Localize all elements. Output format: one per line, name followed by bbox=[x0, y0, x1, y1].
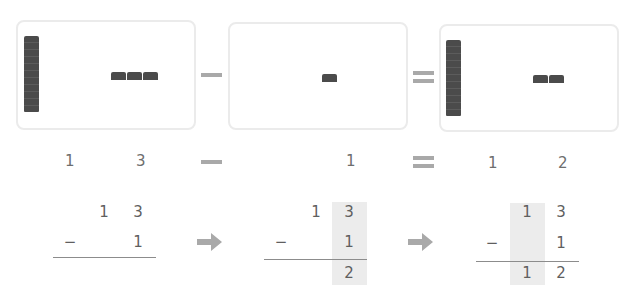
step3-top-tens: 1 bbox=[517, 203, 537, 221]
step2-top-tens: 1 bbox=[306, 203, 326, 221]
tens-rod bbox=[24, 36, 39, 112]
minus-symbol bbox=[201, 73, 222, 77]
equals-symbol-bottom bbox=[413, 79, 434, 83]
step3-result-tens: 1 bbox=[517, 264, 537, 282]
step3-bottom-ones: 1 bbox=[551, 234, 571, 252]
step3-op: − bbox=[482, 234, 502, 252]
equals-symbol-top bbox=[413, 156, 434, 160]
label-a-tens: 1 bbox=[65, 152, 75, 170]
unit-cube bbox=[143, 72, 158, 80]
label-b-ones: 1 bbox=[346, 152, 356, 170]
unit-cube bbox=[533, 75, 548, 83]
unit-cube bbox=[322, 74, 337, 82]
unit-cube bbox=[549, 75, 564, 83]
step2-top-ones: 3 bbox=[339, 203, 359, 221]
step1-op: − bbox=[60, 233, 80, 251]
step2-op: − bbox=[271, 233, 291, 251]
equals-symbol-bottom bbox=[413, 164, 434, 168]
step1-sum-line bbox=[53, 257, 156, 258]
equals-symbol-top bbox=[413, 71, 434, 75]
unit-cube bbox=[111, 72, 126, 80]
minus-symbol bbox=[201, 160, 222, 164]
label-result-ones: 2 bbox=[558, 154, 568, 172]
step3-sum-line bbox=[476, 261, 579, 262]
step1-top-ones: 3 bbox=[128, 203, 148, 221]
right-arrow-icon bbox=[408, 232, 434, 252]
step3-top-ones: 3 bbox=[551, 203, 571, 221]
step1-top-tens: 1 bbox=[94, 203, 114, 221]
step1-bottom-ones: 1 bbox=[128, 233, 148, 251]
step2-sum-line bbox=[264, 259, 367, 260]
step2-result-ones: 2 bbox=[339, 264, 359, 282]
step3-result-ones: 2 bbox=[551, 264, 571, 282]
minuend-panel bbox=[16, 20, 196, 130]
unit-cube bbox=[127, 72, 142, 80]
tens-rod bbox=[446, 40, 461, 116]
right-arrow-icon bbox=[197, 232, 223, 252]
label-a-ones: 3 bbox=[136, 152, 146, 170]
difference-panel bbox=[439, 24, 619, 132]
subtrahend-panel bbox=[228, 22, 408, 130]
label-result-tens: 1 bbox=[488, 154, 498, 172]
step2-bottom-ones: 1 bbox=[339, 233, 359, 251]
